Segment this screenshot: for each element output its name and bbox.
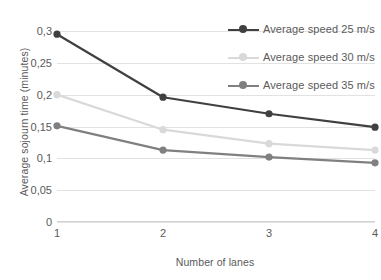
data-point-marker [53, 31, 60, 38]
y-axis-tick-label: 0,25 [0, 57, 52, 69]
data-point-marker [371, 146, 378, 153]
legend-item-label: Average speed 25 m/s [263, 23, 375, 35]
x-axis-tick-label: 3 [249, 227, 289, 239]
series-line [57, 126, 375, 163]
y-axis-tick-label: 0,15 [0, 121, 52, 133]
legend-item[interactable]: Average speed 35 m/s [228, 77, 375, 93]
line-chart: Average sojourn time (minutes) 00,050,10… [0, 0, 381, 280]
legend-item[interactable]: Average speed 30 m/s [228, 49, 375, 65]
gridline [57, 222, 375, 223]
legend-item[interactable]: Average speed 25 m/s [228, 21, 375, 37]
x-axis-tick-label: 2 [143, 227, 183, 239]
x-axis-tick-label: 1 [37, 227, 77, 239]
data-point-marker [159, 126, 166, 133]
y-axis-tick-label: 0,05 [0, 184, 52, 196]
data-point-marker [371, 159, 378, 166]
x-axis-title: Number of lanes [55, 256, 375, 268]
data-point-marker [159, 94, 166, 101]
chart-legend: Average speed 25 m/sAverage speed 30 m/s… [228, 21, 375, 105]
y-axis-tick-label: 0,2 [0, 89, 52, 101]
data-point-marker [265, 110, 272, 117]
x-axis-tick-label: 4 [355, 227, 381, 239]
data-point-marker [265, 153, 272, 160]
data-point-marker [371, 124, 378, 131]
y-axis-tick-label: 0,3 [0, 25, 52, 37]
legend-swatch-icon [228, 80, 259, 91]
data-point-marker [159, 146, 166, 153]
legend-swatch-icon [228, 24, 259, 35]
data-point-marker [53, 122, 60, 129]
legend-swatch-icon [228, 52, 259, 63]
data-point-marker [53, 91, 60, 98]
legend-item-label: Average speed 30 m/s [263, 51, 375, 63]
y-axis-tick-label: 0,1 [0, 152, 52, 164]
data-point-marker [265, 140, 272, 147]
legend-item-label: Average speed 35 m/s [263, 79, 375, 91]
